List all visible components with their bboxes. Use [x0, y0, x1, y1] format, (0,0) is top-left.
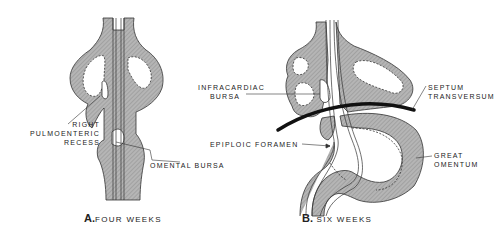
- panel-b-caption: SIX WEEKS: [317, 215, 373, 224]
- label-infracardiac-bursa: INFRACARDIAC BURSA: [198, 83, 265, 101]
- label-epiploic-foramen: EPIPLOIC FORAMEN: [210, 140, 298, 149]
- panel-a-letter: A.: [84, 212, 95, 224]
- label-omental-bursa: OMENTAL BURSA: [150, 161, 225, 170]
- panel-a-caption: FOUR WEEKS: [95, 215, 162, 224]
- label-line: TRANSVERSUM: [428, 92, 495, 101]
- label-line: SEPTUM: [428, 83, 495, 92]
- label-right-pulmoenteric-recess: RIGHT PULMOENTERIC RECESS: [30, 120, 100, 147]
- label-line: BURSA: [198, 92, 265, 101]
- label-line: OMENTUM: [434, 160, 479, 169]
- label-line: RIGHT: [30, 120, 100, 129]
- label-line: GREAT: [434, 151, 479, 160]
- label-septum-transversum: SEPTUM TRANSVERSUM: [428, 83, 495, 101]
- label-line: PULMOENTERIC: [30, 129, 100, 138]
- caption-panel-b: B. SIX WEEKS: [302, 212, 372, 224]
- panel-a-drawing: [68, 18, 180, 200]
- caption-panel-a: A.FOUR WEEKS: [84, 212, 162, 224]
- panel-b-drawing: [246, 20, 432, 216]
- panel-b-letter: B.: [302, 212, 313, 224]
- label-line: RECESS: [30, 138, 100, 147]
- label-great-omentum: GREAT OMENTUM: [434, 151, 479, 169]
- label-line: INFRACARDIAC: [198, 83, 265, 92]
- embryology-diagram: [0, 0, 504, 235]
